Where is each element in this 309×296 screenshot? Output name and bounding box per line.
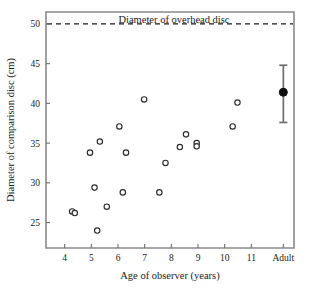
y-tick-label: 35 bbox=[31, 139, 41, 149]
data-point-open bbox=[163, 160, 168, 165]
data-point-open bbox=[177, 144, 182, 149]
plot-annotation-label: Diameter of overhead disc bbox=[118, 14, 229, 25]
x-tick-label: 4 bbox=[62, 253, 67, 263]
y-tick-label: 50 bbox=[31, 19, 41, 29]
data-point-open bbox=[194, 144, 199, 149]
data-point-open bbox=[235, 100, 240, 105]
x-axis-title: Age of observer (years) bbox=[120, 270, 220, 282]
x-tick-label: 6 bbox=[116, 253, 121, 263]
data-point-open bbox=[123, 150, 128, 155]
data-point-adult-mean bbox=[279, 88, 287, 96]
x-tick-label: 10 bbox=[220, 253, 230, 263]
data-point-open bbox=[95, 228, 100, 233]
data-point-open bbox=[230, 124, 235, 129]
y-tick-label: 30 bbox=[31, 178, 41, 188]
data-point-open bbox=[97, 139, 102, 144]
y-tick-label: 45 bbox=[31, 59, 41, 69]
data-point-open bbox=[92, 185, 97, 190]
y-axis-title: Diameter of comparison disc (cm) bbox=[5, 57, 17, 202]
data-point-open bbox=[104, 204, 109, 209]
y-tick-label: 25 bbox=[31, 218, 41, 228]
data-point-open bbox=[120, 190, 125, 195]
x-tick-label: 11 bbox=[247, 253, 256, 263]
x-tick-label: 7 bbox=[142, 253, 147, 263]
data-point-open bbox=[117, 124, 122, 129]
x-tick-label: 5 bbox=[89, 253, 94, 263]
data-point-open bbox=[157, 190, 162, 195]
data-point-open bbox=[72, 210, 77, 215]
data-point-open bbox=[141, 97, 146, 102]
x-tick-label: 9 bbox=[196, 253, 201, 263]
data-point-open bbox=[87, 150, 92, 155]
plot-canvas: 4567891011Adult 253035404550 Diameter of… bbox=[0, 0, 309, 296]
x-tick-label: 8 bbox=[169, 253, 174, 263]
scatter-plot-figure: 4567891011Adult 253035404550 Diameter of… bbox=[0, 0, 309, 296]
x-tick-label: Adult bbox=[273, 253, 295, 263]
y-tick-label: 40 bbox=[31, 99, 41, 109]
data-point-open bbox=[183, 132, 188, 137]
